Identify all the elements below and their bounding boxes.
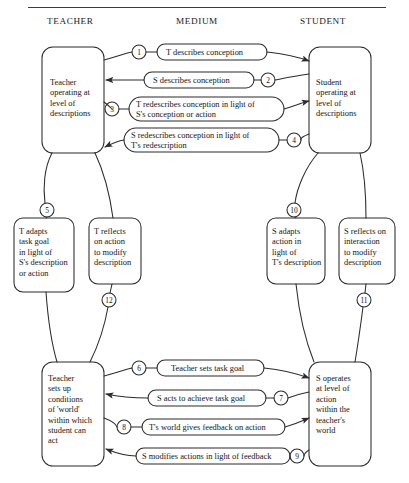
circle-number-6: 6	[132, 364, 146, 373]
connector-8-right	[285, 418, 309, 427]
pill-label-7: S acts to achieve task goal	[157, 394, 265, 404]
circle-number-5: 5	[40, 206, 54, 215]
circle-number-2: 2	[261, 76, 275, 85]
circle-number-8: 8	[117, 423, 131, 432]
connector-5-lower	[46, 217, 47, 218]
circle-number-1: 1	[132, 48, 146, 57]
box-label-teacher-sets-up-conditions: Teacher sets up conditions of 'world' wi…	[48, 374, 106, 447]
connector-9-right	[304, 450, 309, 456]
connector-12-mid	[110, 284, 112, 293]
connector-11-upper	[360, 153, 366, 218]
box-label-t-adapts-task-goal: T adapts task goal in light of S's descr…	[19, 227, 77, 279]
connector-4-right	[301, 134, 309, 140]
pill-label-1: T describes conception	[166, 48, 262, 58]
connector-1-left	[104, 52, 132, 60]
connector-5-upper	[44, 153, 52, 203]
connector-10-to-bottom	[296, 284, 314, 362]
pill-label-3: T redescribes conception in light of S's…	[136, 100, 282, 120]
connector-3-right	[284, 101, 309, 109]
connector-6-right	[264, 368, 309, 378]
connector-12-upper	[95, 153, 113, 218]
circle-number-11: 11	[357, 296, 371, 305]
connector-5-to-bottom	[46, 292, 57, 362]
connector-1-right	[267, 52, 309, 61]
connector-11-mid	[365, 284, 366, 293]
connector-12-lower	[90, 307, 108, 362]
pill-label-2: S describes conception	[153, 76, 249, 86]
box-label-t-reflects-on-action: T reflects on action to modify descripti…	[94, 227, 144, 269]
connector-4-left	[105, 140, 124, 147]
circle-number-9: 9	[290, 452, 304, 461]
circle-number-4: 4	[287, 136, 301, 145]
pill-label-6: Teacher sets task goal	[171, 364, 267, 374]
circle-number-3: 3	[105, 105, 119, 114]
connector-11-lower	[355, 307, 363, 362]
connector-9-left	[106, 449, 136, 456]
pill-label-8: T's world gives feedback on action	[149, 423, 283, 433]
connector-7-left	[106, 394, 148, 398]
box-label-student-descriptions: Student operating at level of descriptio…	[316, 78, 374, 120]
pill-label-9: S modifies actions in light of feedback	[142, 452, 288, 462]
circle-number-10: 10	[287, 206, 301, 215]
connector-6-left	[104, 368, 132, 376]
box-label-s-operates-level-of-action: S operates at level of action within the…	[316, 374, 374, 436]
connector-10-upper	[295, 153, 318, 203]
connector-2-right	[275, 74, 309, 80]
box-label-teacher-descriptions: Teacher operating at level of descriptio…	[50, 78, 106, 120]
box-label-s-reflects-on-interaction: S reflects on interaction to modify desc…	[344, 227, 398, 269]
pill-label-4: S redescribes conception in light of T's…	[131, 131, 277, 151]
circle-number-12: 12	[102, 296, 116, 305]
connector-10-lower	[295, 217, 296, 218]
circle-number-7: 7	[274, 394, 288, 403]
connector-7-right	[288, 392, 309, 398]
diagram-canvas: TEACHER MEDIUM STUDENT	[0, 0, 409, 483]
box-label-s-adapts-action: S adapts action in light of T's descript…	[272, 227, 328, 269]
